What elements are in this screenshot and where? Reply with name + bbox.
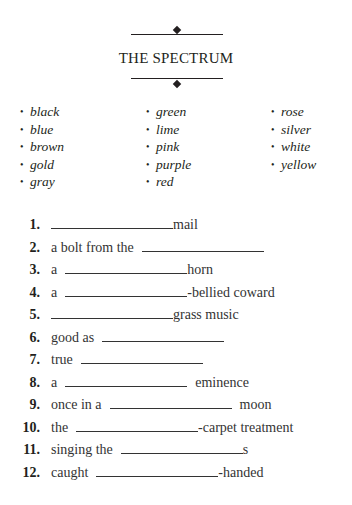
bullet-icon: • (271, 138, 281, 156)
word-bank-item: •green (146, 103, 191, 121)
word-bank-item: •yellow (271, 156, 316, 174)
answer-blank[interactable] (65, 259, 187, 274)
word-bank-item: •purple (146, 156, 191, 174)
word-bank-item: •white (271, 138, 316, 156)
question-number: 11. (23, 439, 40, 461)
word-bank-word: black (30, 104, 59, 119)
word-bank-column-3: •rose•silver•white•yellow (271, 103, 316, 173)
text-after-blank: -carpet treatment (198, 420, 293, 435)
question-row: 2.a bolt from the (0, 237, 352, 260)
word-bank-item: •red (146, 173, 191, 191)
question-row: 12.caught-handed (0, 462, 352, 485)
bullet-icon: • (146, 173, 156, 191)
bullet-icon: • (20, 173, 30, 191)
word-bank-column-1: •black•blue•brown•gold•gray (20, 103, 64, 191)
question-row: 6.good as (0, 327, 352, 350)
text-after-blank: eminence (195, 375, 249, 390)
answer-blank[interactable] (51, 214, 173, 229)
answer-blank[interactable] (65, 282, 187, 297)
question-row: 10.the-carpet treatment (0, 417, 352, 440)
question-row: 7.true (0, 349, 352, 372)
answer-blank[interactable] (96, 462, 218, 477)
bullet-icon: • (271, 156, 281, 174)
question-number: 2. (30, 237, 41, 259)
text-before-blank: a (51, 375, 57, 390)
answer-blank[interactable] (102, 327, 224, 342)
word-bank-word: pink (156, 139, 179, 154)
answer-blank[interactable] (110, 394, 232, 409)
word-bank-word: white (281, 139, 310, 154)
word-bank-word: brown (30, 139, 64, 154)
question-row: 4.a-bellied coward (0, 282, 352, 305)
bullet-icon: • (146, 121, 156, 139)
bullet-icon: • (20, 121, 30, 139)
bullet-icon: • (20, 138, 30, 156)
word-bank-item: •blue (20, 121, 64, 139)
question-text: mail (51, 214, 198, 236)
text-before-blank: a (51, 285, 57, 300)
word-bank-item: •silver (271, 121, 316, 139)
bullet-icon: • (146, 138, 156, 156)
word-bank-word: green (156, 104, 186, 119)
question-text: caught-handed (51, 462, 263, 484)
word-bank-column-2: •green•lime•pink•purple•red (146, 103, 191, 191)
text-before-blank: the (51, 420, 68, 435)
question-number: 5. (30, 304, 41, 326)
word-bank-item: •brown (20, 138, 64, 156)
question-number: 6. (30, 327, 41, 349)
question-text: grass music (51, 304, 239, 326)
question-number: 10. (23, 417, 41, 439)
question-row: 3.ahorn (0, 259, 352, 282)
word-bank-word: gray (30, 174, 55, 189)
question-text: a bolt from the (51, 237, 264, 259)
text-after-blank: mail (173, 217, 198, 232)
word-bank-item: •gray (20, 173, 64, 191)
text-after-blank: horn (187, 262, 213, 277)
bullet-icon: • (146, 156, 156, 174)
answer-blank[interactable] (76, 417, 198, 432)
bullet-icon: • (146, 103, 156, 121)
diamond-icon (173, 80, 181, 88)
bullet-icon: • (271, 103, 281, 121)
word-bank-item: •lime (146, 121, 191, 139)
word-bank-item: •black (20, 103, 64, 121)
word-bank-item: •rose (271, 103, 316, 121)
text-before-blank: once in a (51, 397, 102, 412)
question-text: the-carpet treatment (51, 417, 293, 439)
answer-blank[interactable] (65, 372, 187, 387)
bullet-icon: • (20, 156, 30, 174)
question-number: 8. (30, 372, 41, 394)
word-bank-word: red (156, 174, 174, 189)
question-row: 1.mail (0, 214, 352, 237)
question-row: 9.once in amoon (0, 394, 352, 417)
answer-blank[interactable] (121, 439, 243, 454)
question-text: once in amoon (51, 394, 271, 416)
word-bank-word: purple (156, 157, 191, 172)
question-text: singing thes (51, 439, 248, 461)
fill-in-list: 1.mail2.a bolt from the3.ahorn4.a-bellie… (0, 214, 352, 484)
bullet-icon: • (20, 103, 30, 121)
answer-blank[interactable] (81, 349, 203, 364)
bullet-icon: • (271, 121, 281, 139)
text-before-blank: a bolt from the (51, 240, 134, 255)
word-bank-word: gold (30, 157, 54, 172)
question-text: good as (51, 327, 224, 349)
question-number: 7. (30, 349, 41, 371)
text-before-blank: caught (51, 465, 88, 480)
answer-blank[interactable] (51, 304, 173, 319)
text-after-blank: grass music (173, 307, 239, 322)
word-bank-item: •gold (20, 156, 64, 174)
diamond-icon (173, 26, 181, 34)
text-before-blank: singing the (51, 442, 113, 457)
page-title: THE SPECTRUM (0, 50, 352, 67)
answer-blank[interactable] (142, 237, 264, 252)
word-bank-word: rose (281, 104, 304, 119)
word-bank-word: silver (281, 122, 311, 137)
text-after-blank: moon (240, 397, 272, 412)
question-number: 12. (23, 462, 41, 484)
text-before-blank: good as (51, 330, 94, 345)
text-before-blank: a (51, 262, 57, 277)
question-text: a-bellied coward (51, 282, 275, 304)
question-number: 4. (30, 282, 41, 304)
question-text: aeminence (51, 372, 249, 394)
